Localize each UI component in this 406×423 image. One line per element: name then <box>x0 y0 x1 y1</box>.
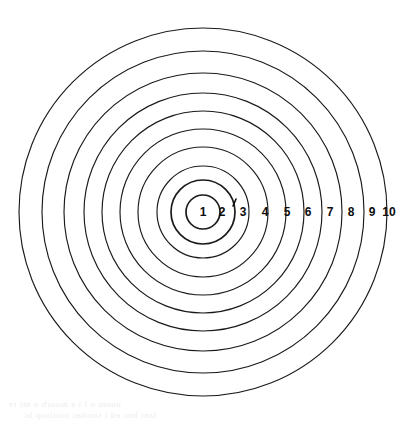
ring-label-2: 2 <box>219 205 226 219</box>
ring-label-7: 7 <box>327 205 334 219</box>
target-figure: 1 2 3 4 5 6 7 8 9 10 nuom o l i e moorb … <box>0 0 406 423</box>
ring-label-10: 10 <box>382 205 396 219</box>
ring-label-3: 3 <box>240 205 247 219</box>
ring-label-8: 8 <box>348 205 355 219</box>
concentric-ring-target-svg: 1 2 3 4 5 6 7 8 9 10 <box>0 0 406 423</box>
ring-label-1: 1 <box>200 205 207 219</box>
ring-label-9: 9 <box>369 205 376 219</box>
ring-label-4: 4 <box>262 205 269 219</box>
ring-label-5: 5 <box>284 205 291 219</box>
ring-label-6: 6 <box>305 205 312 219</box>
